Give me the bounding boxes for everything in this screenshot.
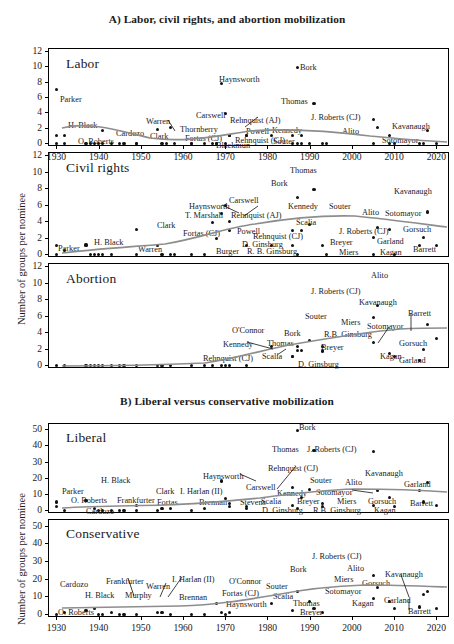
point-label: Souter <box>310 477 332 485</box>
data-point <box>135 142 138 145</box>
data-point <box>296 590 299 593</box>
y-tick-label: 0 <box>20 504 42 515</box>
point-label: H. Black <box>85 592 115 600</box>
point-label: J. Roberts (CJ) <box>307 446 357 454</box>
point-label: D. Ginsburg <box>298 361 339 369</box>
point-label: Clark <box>156 488 174 496</box>
point-label: Warren <box>146 583 170 591</box>
y-tick-label: 8 <box>20 293 42 304</box>
y-tick-mark <box>45 596 48 597</box>
point-label: Kavanaugh <box>385 571 423 579</box>
data-point <box>169 613 172 616</box>
point-label: Barrett <box>408 310 431 318</box>
data-point <box>135 613 138 616</box>
y-tick-label: 2 <box>20 122 42 133</box>
point-label: Kavanaugh <box>392 123 430 131</box>
y-tick-label: 30 <box>20 555 42 566</box>
panel-label-abortion: Abortion <box>66 271 116 287</box>
point-label: Miers <box>339 249 358 257</box>
point-label: Fortas (CJ) <box>183 230 220 238</box>
point-label: Haynsworth <box>219 76 260 84</box>
data-point <box>156 364 159 367</box>
data-point <box>110 253 113 256</box>
data-point <box>89 364 92 367</box>
data-point <box>110 611 113 614</box>
panel-label-civil-rights: Civil rights <box>66 160 130 176</box>
data-point <box>55 134 58 137</box>
point-label: H. Black <box>94 239 124 247</box>
x-tick-label: 2010 <box>377 151 411 162</box>
point-label: Souter <box>305 313 327 321</box>
point-label: Carswell <box>196 112 226 120</box>
x-tick-mark <box>267 146 268 149</box>
y-tick-mark <box>45 66 48 67</box>
x-tick-mark <box>352 146 353 149</box>
point-label: Alito <box>371 272 388 280</box>
point-label: Carswell <box>229 197 259 205</box>
point-label: O. Roberts <box>58 609 94 617</box>
x-tick-label: 1960 <box>166 622 200 633</box>
data-point <box>300 142 303 145</box>
point-label: Fortas <box>157 499 178 507</box>
point-label: Sotomayor <box>382 137 418 145</box>
y-tick-label: 6 <box>20 310 42 321</box>
y-tick-label: 4 <box>20 215 42 226</box>
point-label: I. Harlan (II) <box>180 488 223 496</box>
point-label: Kavanaugh <box>394 188 432 196</box>
y-tick-mark <box>45 462 48 463</box>
x-tick-label: 1940 <box>82 622 116 633</box>
data-point <box>160 364 163 367</box>
data-point <box>300 349 303 352</box>
point-label: Scalia <box>262 353 282 361</box>
point-label: Parker <box>58 245 80 253</box>
point-label: J. Roberts (CJ) <box>312 553 362 561</box>
panel-label-labor: Labor <box>66 56 99 72</box>
x-tick-mark <box>56 617 57 620</box>
point-label: Frankfurter <box>106 578 144 586</box>
data-point <box>156 509 159 512</box>
y-tick-label: 12 <box>20 45 42 56</box>
point-label: Barrett <box>410 500 433 508</box>
point-label: Souter <box>273 138 295 146</box>
point-label: Kennedy <box>223 341 253 349</box>
x-tick-mark <box>183 617 184 620</box>
x-tick-label: 1970 <box>208 622 242 633</box>
point-label: Scalia <box>296 219 316 227</box>
data-point <box>224 613 227 616</box>
y-tick-mark <box>45 429 48 430</box>
data-point <box>55 364 58 367</box>
point-label: Souter <box>266 583 288 591</box>
point-label: Murphy <box>125 592 152 600</box>
y-tick-label: 8 <box>20 76 42 87</box>
y-tick-mark <box>45 254 48 255</box>
y-tick-label: 20 <box>20 472 42 483</box>
point-label: Kennedy <box>272 127 302 135</box>
point-label: Garland <box>377 238 404 246</box>
y-tick-mark <box>45 188 48 189</box>
data-point <box>173 253 176 256</box>
x-tick-mark <box>56 146 57 149</box>
point-label: Alito <box>342 128 359 136</box>
point-label: Bork <box>271 180 288 188</box>
point-label: Clark <box>150 133 168 141</box>
y-tick-label: 8 <box>20 182 42 193</box>
panel-b-title: B) Liberal versus conservative mobilizat… <box>0 395 454 407</box>
data-point <box>325 142 328 145</box>
y-tick-mark <box>45 299 48 300</box>
point-label: Kagan <box>374 507 396 515</box>
data-point <box>308 488 311 491</box>
x-tick-mark <box>141 617 142 620</box>
y-tick-mark <box>45 82 48 83</box>
point-label: Garland <box>384 597 411 605</box>
x-tick-label: 1930 <box>39 151 73 162</box>
data-point <box>203 253 206 256</box>
x-tick-label: 1940 <box>82 151 116 162</box>
point-label: Haynsworth <box>189 203 230 211</box>
x-tick-label: 1990 <box>293 622 327 633</box>
x-tick-mark <box>310 146 311 149</box>
data-point <box>160 507 163 510</box>
x-tick-mark <box>225 617 226 620</box>
data-point <box>55 500 58 503</box>
data-point <box>173 142 176 145</box>
point-label: Cardozo <box>116 130 144 138</box>
